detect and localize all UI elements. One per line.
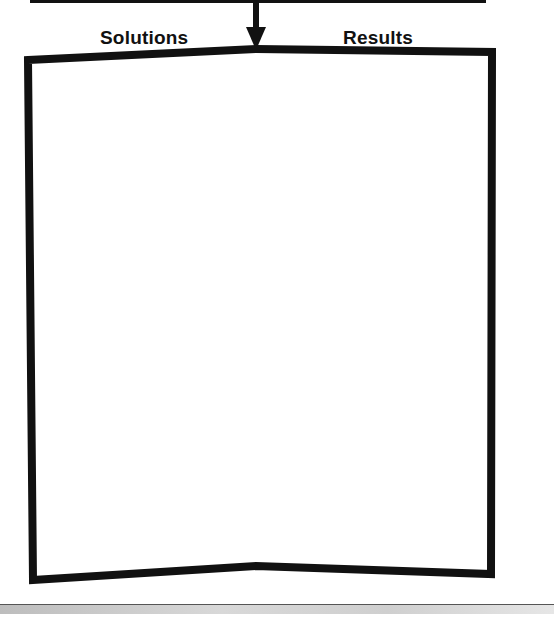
solutions-label: Solutions — [100, 27, 188, 49]
page-bottom-edge — [0, 604, 554, 614]
results-label: Results — [343, 27, 413, 49]
solutions-results-box — [28, 49, 492, 580]
